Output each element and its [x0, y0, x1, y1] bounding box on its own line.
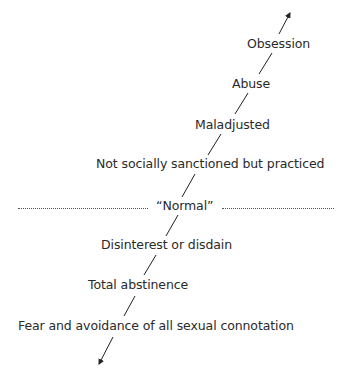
arrow-down-icon	[99, 337, 113, 364]
label-maladjusted: Maladjusted	[195, 118, 270, 132]
label-total-abstinence: Total abstinence	[88, 278, 188, 292]
normal-divider-left	[18, 208, 148, 209]
label-obsession: Obsession	[247, 37, 310, 51]
arrow-up-icon	[279, 13, 290, 34]
label-abuse: Abuse	[232, 77, 270, 91]
label-normal: “Normal”	[156, 199, 213, 213]
normal-divider-right	[222, 208, 334, 209]
label-disinterest: Disinterest or disdain	[101, 238, 232, 252]
label-not-socially-sanctioned: Not socially sanctioned but practiced	[96, 157, 324, 171]
label-fear-avoidance: Fear and avoidance of all sexual connota…	[18, 319, 294, 333]
